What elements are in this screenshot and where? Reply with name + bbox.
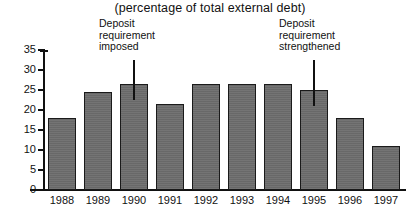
y-tick-label: 10 xyxy=(12,144,36,155)
x-tick-label: 1994 xyxy=(260,194,296,206)
x-tick-label: 1995 xyxy=(296,194,332,206)
x-tick-label: 1988 xyxy=(44,194,80,206)
y-tick-label: 15 xyxy=(12,124,36,135)
bar-series xyxy=(44,50,404,190)
x-tick-label: 1990 xyxy=(116,194,152,206)
bar xyxy=(84,92,113,190)
annotation-line-text: imposed xyxy=(99,41,155,53)
bar xyxy=(156,104,185,190)
bar xyxy=(264,84,293,190)
x-tick-label: 1989 xyxy=(80,194,116,206)
bar xyxy=(228,84,257,190)
y-tick-label: 30 xyxy=(12,64,36,75)
chart-title: (percentage of total external debt) xyxy=(0,1,420,15)
y-tick-label-wrap: 35 xyxy=(0,44,36,55)
y-tick-label: 5 xyxy=(12,164,36,175)
x-tick-label: 1993 xyxy=(224,194,260,206)
annotation-pointer-line xyxy=(313,60,315,106)
x-tick-label: 1992 xyxy=(188,194,224,206)
y-tick-label: 20 xyxy=(12,104,36,115)
annotation-line-text: strengthened xyxy=(279,41,340,53)
annotation-label: Depositrequirementimposed xyxy=(99,18,155,53)
y-tick-label: 35 xyxy=(12,44,36,55)
annotation-line-text: Deposit xyxy=(279,18,340,30)
y-tick-label: 0 xyxy=(12,184,36,195)
annotation-line-text: Deposit xyxy=(99,18,155,30)
y-tick-label-wrap: 20 xyxy=(0,104,36,115)
y-tick-label: 25 xyxy=(12,84,36,95)
bar xyxy=(48,118,77,190)
x-tick-label: 1991 xyxy=(152,194,188,206)
x-tick-label: 1997 xyxy=(368,194,404,206)
y-tick-label-wrap: 10 xyxy=(0,144,36,155)
bar xyxy=(192,84,221,190)
y-tick-label-wrap: 25 xyxy=(0,84,36,95)
y-tick-label-wrap: 0 xyxy=(0,184,36,195)
y-tick-label-wrap: 15 xyxy=(0,124,36,135)
annotation-label: Depositrequirementstrengthened xyxy=(279,18,340,53)
bar xyxy=(336,118,365,190)
y-tick-label-wrap: 5 xyxy=(0,164,36,175)
bar xyxy=(372,146,401,190)
annotation-pointer-line xyxy=(133,60,135,100)
chart-figure: (percentage of total external debt) 0510… xyxy=(0,0,420,215)
x-tick-label: 1996 xyxy=(332,194,368,206)
y-tick-label-wrap: 30 xyxy=(0,64,36,75)
